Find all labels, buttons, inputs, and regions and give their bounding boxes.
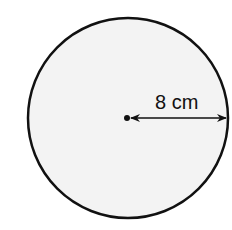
radius-label: 8 cm (155, 91, 198, 113)
circle-diagram: 8 cm (0, 0, 232, 230)
center-point (124, 115, 130, 121)
